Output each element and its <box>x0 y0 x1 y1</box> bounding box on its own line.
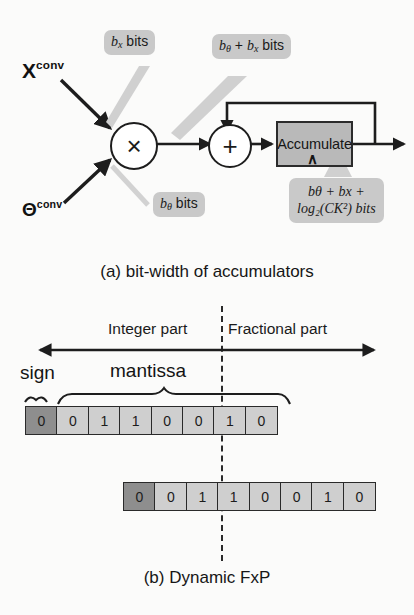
fxp-row-top: 00110010 <box>25 406 278 435</box>
adder-node: + <box>208 124 252 168</box>
accumulate-clock-icon: ∧ <box>307 150 318 168</box>
weight-input-sup: conv <box>37 198 63 210</box>
fractional-part-label: Fractional part <box>228 320 327 338</box>
bit-cell: 1 <box>213 406 246 435</box>
panel-a: Xconv Θconv × + Accumulate ∧ bx bits bθ … <box>0 0 414 300</box>
multiply-symbol: × <box>126 131 141 162</box>
panel-a-caption: (a) bit-width of accumulators <box>0 262 414 282</box>
callout-product-tail: bits <box>258 37 284 53</box>
bit-cell: 0 <box>56 406 89 435</box>
bit-cell: 0 <box>25 406 58 435</box>
callout-product-math1: b <box>219 38 226 53</box>
weight-input-label: Θconv <box>22 198 62 221</box>
weight-input-base: Θ <box>22 199 37 220</box>
callout-accumulator-line2: log₂(CK²) bits <box>297 200 376 217</box>
bit-cell: 0 <box>280 482 313 511</box>
bit-cell: 0 <box>249 482 282 511</box>
bit-cell: 0 <box>151 406 184 435</box>
add-symbol: + <box>222 131 237 162</box>
integer-part-label: Integer part <box>108 320 187 338</box>
fxp-row-bottom: 00110010 <box>123 482 376 511</box>
callout-activation-bits: bx bits <box>104 30 155 55</box>
span-arrow <box>0 340 414 380</box>
callout-product-mid: + <box>231 37 247 53</box>
callout-activation-math: b <box>111 34 118 49</box>
mantissa-label: mantissa <box>110 360 186 382</box>
callout-product-math2: b <box>247 38 254 53</box>
bit-cell: 1 <box>88 406 121 435</box>
bit-cell: 1 <box>186 482 219 511</box>
multiplier-node: × <box>110 122 158 170</box>
activation-input-label: Xconv <box>22 58 64 83</box>
panel-b: Integer part Fractional part sign mantis… <box>0 300 414 615</box>
callout-activation-tail: bits <box>122 33 148 49</box>
callout-weight-bits: bθ bits <box>153 192 205 217</box>
activation-input-sup: conv <box>36 58 64 71</box>
activation-input-base: X <box>22 59 36 82</box>
bit-cell: 1 <box>311 482 344 511</box>
callout-weight-math: b <box>160 196 167 211</box>
bit-cell: 0 <box>154 482 187 511</box>
bit-cell: 1 <box>217 482 250 511</box>
callout-accumulator-bits: bθ + bx + log₂(CK²) bits <box>289 178 384 223</box>
callout-product-bits: bθ + bx bits <box>212 34 291 59</box>
sign-label: sign <box>20 362 55 384</box>
bit-cell: 0 <box>245 406 278 435</box>
bit-cell: 0 <box>123 482 156 511</box>
panel-b-caption: (b) Dynamic FxP <box>0 568 414 588</box>
bit-cell: 1 <box>119 406 152 435</box>
callout-weight-tail: bits <box>172 195 198 211</box>
figure-root: Xconv Θconv × + Accumulate ∧ bx bits bθ … <box>0 0 414 615</box>
bit-cell: 0 <box>343 482 376 511</box>
callout-accumulator-line1: bθ + bx + <box>297 183 376 200</box>
bit-cell: 0 <box>182 406 215 435</box>
